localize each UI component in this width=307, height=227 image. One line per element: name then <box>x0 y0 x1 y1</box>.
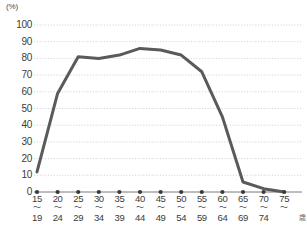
x-axis-tick-label: 75～ <box>271 193 297 212</box>
x-tick-range-separator: ～ <box>271 204 297 212</box>
y-axis-tick-label: 10 <box>4 170 32 180</box>
y-axis-tick-label: 80 <box>4 53 32 63</box>
y-axis-tick-label: 60 <box>4 87 32 97</box>
y-axis-tick-label: 30 <box>4 137 32 147</box>
x-axis-tick-labels: 歳 15～1920～2425～2930～3435～3940～4445～4950～… <box>0 193 307 227</box>
line-chart: (%) 1009080706050403020100 歳 15～1920～242… <box>0 0 307 227</box>
y-axis-tick-label: 40 <box>4 120 32 130</box>
gridlines <box>34 25 302 175</box>
y-axis-tick-label: 70 <box>4 70 32 80</box>
y-axis-tick-label: 20 <box>4 154 32 164</box>
y-axis-tick-label: 100 <box>4 20 32 30</box>
x-tick-upper-bound: 74 <box>251 212 277 223</box>
x-axis-unit-label: 歳 <box>299 214 306 222</box>
data-series-line <box>37 48 284 192</box>
y-axis-tick-label: 50 <box>4 104 32 114</box>
y-axis-tick-label: 90 <box>4 37 32 47</box>
chart-svg <box>34 20 302 197</box>
plot-area <box>34 20 302 197</box>
